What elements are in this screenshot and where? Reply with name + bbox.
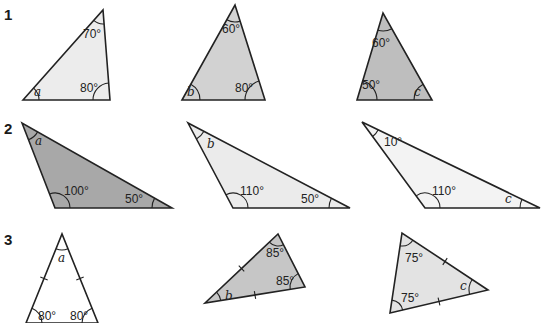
triangle-1a: a70°80°: [23, 10, 110, 100]
triangle-1b: b60°80°: [182, 5, 265, 100]
angle-value-label: 60°: [222, 22, 240, 36]
angle-value-label: 80°: [235, 81, 253, 95]
angle-value-label: 10°: [384, 135, 402, 149]
triangle-shape: [22, 123, 172, 208]
angle-value-label: 80°: [80, 81, 98, 95]
angle-value-label: 60°: [372, 36, 390, 50]
angle-value-label: 100°: [64, 184, 89, 198]
triangle-3b: b85°85°: [205, 234, 305, 303]
triangle-shape: [188, 123, 350, 208]
triangles-figure: 1 2 3 a70°80°b60°80°50°60°ca100°50°b110°…: [0, 0, 543, 323]
angle-value-label: 85°: [276, 274, 294, 288]
angle-value-label: 80°: [38, 309, 56, 323]
angle-value-label: 110°: [240, 184, 264, 198]
unknown-angle-label: c: [460, 279, 467, 293]
unknown-angle-label: b: [225, 289, 233, 303]
unknown-angle-label: b: [207, 137, 215, 151]
angle-value-label: 85°: [266, 246, 284, 260]
row-label-1: 1: [4, 6, 12, 23]
angle-value-label: 50°: [125, 192, 143, 206]
unknown-angle-label: c: [505, 192, 512, 206]
triangle-3c: 75°75°c: [390, 233, 488, 313]
unknown-angle-label: a: [34, 85, 41, 99]
unknown-angle-label: a: [58, 251, 65, 265]
row-label-2: 2: [4, 120, 12, 137]
unknown-angle-label: a: [35, 134, 42, 148]
angle-value-label: 80°: [70, 309, 88, 323]
angle-value-label: 50°: [362, 78, 380, 92]
unknown-angle-label: b: [187, 85, 195, 99]
angle-value-label: 75°: [405, 251, 423, 265]
triangle-1c: 50°60°c: [357, 13, 432, 100]
angle-value-label: 110°: [432, 184, 456, 198]
row-label-3: 3: [4, 231, 12, 248]
triangle-2c: 10°110°c: [362, 122, 540, 208]
triangle-3a: 80°a80°: [26, 234, 98, 323]
triangle-2a: a100°50°: [22, 123, 172, 208]
unknown-angle-label: c: [414, 85, 421, 99]
triangle-2b: b110°50°: [188, 123, 350, 208]
angle-value-label: 50°: [301, 192, 319, 206]
angle-value-label: 70°: [83, 27, 101, 41]
angle-value-label: 75°: [401, 291, 419, 305]
